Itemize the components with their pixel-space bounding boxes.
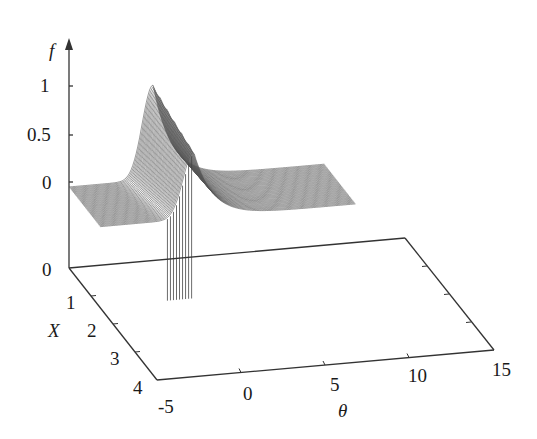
surface-mesh — [69, 85, 356, 301]
surface-plot — [0, 0, 537, 439]
x-axis-label: X — [48, 321, 60, 340]
f-axis-arrow — [65, 38, 73, 50]
baseline-back — [69, 238, 405, 268]
theta-axis-line — [157, 350, 494, 380]
f-tick-label: 1 — [40, 76, 50, 95]
theta-tick-label: -5 — [158, 397, 174, 416]
theta-tick-label: 5 — [330, 375, 340, 394]
x-tick-label: 2 — [87, 321, 97, 340]
theta-axis-label: θ — [338, 401, 347, 420]
x-tick-label: 3 — [110, 349, 120, 368]
baseline-right — [405, 238, 494, 350]
theta-tick-label: 0 — [243, 384, 253, 403]
x-tick-label: 4 — [133, 378, 143, 397]
theta-tick-label: 10 — [408, 366, 427, 385]
x-tick-label: 1 — [66, 293, 76, 312]
theta-tick-label: 15 — [492, 360, 511, 379]
f-tick-label: 0.5 — [27, 125, 51, 144]
f-tick-label: 0 — [42, 173, 52, 192]
x-tick-label: 0 — [42, 260, 52, 279]
f-axis-label: f — [49, 41, 54, 60]
